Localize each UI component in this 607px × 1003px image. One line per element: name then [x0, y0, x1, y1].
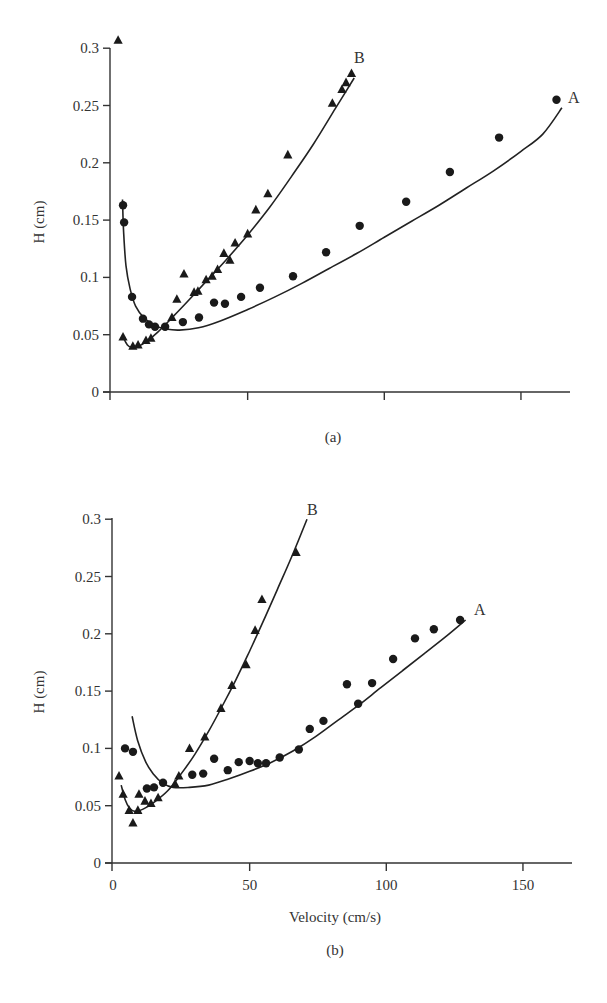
circle-marker: [389, 655, 397, 663]
series-label-b: B: [354, 49, 365, 66]
y-tick-label: 0.05: [75, 798, 101, 814]
circle-marker: [210, 298, 218, 306]
circle-marker: [221, 300, 229, 308]
y-tick-label: 0.05: [73, 327, 99, 343]
fit-curve-a: [132, 620, 466, 788]
triangle-marker: [341, 78, 350, 87]
data-points: [114, 35, 561, 350]
triangle-marker: [119, 789, 128, 798]
circle-marker: [430, 625, 438, 633]
series-label-a: A: [568, 89, 580, 106]
triangle-marker: [283, 150, 292, 159]
panel-label-b: (b): [326, 942, 344, 959]
fit-curve-a: [123, 108, 562, 330]
triangle-marker: [128, 818, 137, 827]
triangle-marker: [170, 779, 179, 788]
y-axis-title: H (cm): [31, 201, 48, 244]
circle-marker: [188, 771, 196, 779]
chart-b-svg: 00.050.10.150.20.250.3 050100150 H (cm) …: [0, 470, 607, 1003]
triangle-marker: [263, 189, 272, 198]
y-tick-label: 0.1: [82, 740, 101, 756]
triangle-marker: [251, 205, 260, 214]
x-tick-label: 50: [242, 877, 257, 893]
y-tick-label: 0: [94, 855, 102, 871]
series-label-b: B: [307, 501, 318, 518]
y-tick-label: 0.25: [75, 569, 101, 585]
circle-marker: [151, 322, 159, 330]
circle-marker: [161, 322, 169, 330]
y-tick-label: 0.3: [80, 40, 99, 56]
triangle-marker: [251, 625, 260, 634]
circle-marker: [495, 133, 503, 141]
triangle-marker: [257, 594, 266, 603]
triangle-marker: [292, 547, 301, 556]
circle-marker: [195, 313, 203, 321]
y-tick-label: 0: [92, 384, 100, 400]
y-axis-title: H (cm): [31, 671, 48, 714]
x-axis: 050100150: [105, 863, 572, 893]
triangle-marker: [185, 743, 194, 752]
y-axis: 00.050.10.150.20.250.3: [75, 511, 112, 871]
chart-a-svg: 00.050.10.150.20.250.3 H (cm) B A (a): [0, 0, 607, 470]
circle-marker: [143, 784, 151, 792]
fit-curves: [123, 78, 562, 347]
circle-marker: [552, 96, 560, 104]
fit-curves: [121, 519, 465, 811]
circle-marker: [319, 717, 327, 725]
triangle-marker: [134, 789, 143, 798]
circle-marker: [354, 700, 362, 708]
circle-marker: [289, 272, 297, 280]
y-tick-label: 0.25: [73, 98, 99, 114]
x-axis-title: Velocity (cm/s): [289, 909, 381, 926]
y-ticks: 00.050.10.150.20.250.3: [73, 40, 110, 400]
circle-marker: [119, 201, 127, 209]
triangle-marker: [216, 703, 225, 712]
circle-marker: [237, 293, 245, 301]
circle-marker: [235, 758, 243, 766]
fit-curve-b: [124, 78, 355, 347]
circle-marker: [254, 759, 262, 767]
chart-panel-b: 00.050.10.150.20.250.3 050100150 H (cm) …: [0, 470, 607, 1003]
circle-marker: [159, 779, 167, 787]
y-tick-label: 0.2: [82, 626, 101, 642]
circle-marker: [199, 769, 207, 777]
circle-marker: [179, 318, 187, 326]
circle-marker: [224, 766, 232, 774]
circle-marker: [411, 634, 419, 642]
circle-marker: [256, 284, 264, 292]
triangle-marker: [125, 805, 134, 814]
x-tick-label: 0: [109, 877, 117, 893]
y-axis: 00.050.10.150.20.250.3: [73, 40, 110, 400]
triangle-marker: [219, 248, 228, 257]
x-axis: [103, 392, 570, 400]
x-tick-label: 100: [375, 877, 398, 893]
y-tick-label: 0.15: [75, 683, 101, 699]
circle-marker: [121, 744, 129, 752]
panel-label-a: (a): [325, 429, 342, 446]
triangle-marker: [347, 68, 356, 77]
series-label-a: A: [474, 601, 486, 618]
chart-panel-a: 00.050.10.150.20.250.3 H (cm) B A (a): [0, 0, 607, 470]
circle-marker: [356, 222, 364, 230]
triangle-marker: [114, 35, 123, 44]
circle-marker: [128, 293, 136, 301]
y-tick-label: 0.2: [80, 155, 99, 171]
circle-marker: [402, 198, 410, 206]
y-tick-label: 0.1: [80, 269, 99, 285]
circle-marker: [150, 783, 158, 791]
circle-marker: [368, 679, 376, 687]
circle-marker: [456, 616, 464, 624]
triangle-marker: [230, 238, 239, 247]
circle-marker: [262, 759, 270, 767]
triangle-marker: [118, 332, 127, 341]
x-tick-label: 150: [512, 877, 535, 893]
circle-marker: [343, 680, 351, 688]
circle-marker: [210, 755, 218, 763]
y-tick-label: 0.3: [82, 511, 101, 527]
y-tick-label: 0.15: [73, 212, 99, 228]
triangle-marker: [172, 294, 181, 303]
circle-marker: [446, 168, 454, 176]
circle-marker: [306, 725, 314, 733]
triangle-marker: [114, 771, 123, 780]
triangle-marker: [179, 269, 188, 278]
